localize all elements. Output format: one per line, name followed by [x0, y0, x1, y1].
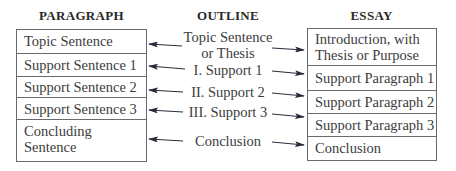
arrow-right-icon [272, 48, 304, 50]
arrow-left-icon [149, 139, 183, 141]
arrow-left-icon [149, 66, 185, 69]
arrow-right-icon [272, 71, 304, 74]
connector-arrows [0, 0, 456, 171]
arrow-left-icon [149, 90, 183, 92]
arrow-right-icon [272, 142, 304, 145]
arrow-left-icon [149, 44, 182, 46]
arrow-right-icon [272, 93, 304, 96]
arrow-right-icon [272, 114, 304, 117]
arrow-left-icon [149, 110, 183, 112]
